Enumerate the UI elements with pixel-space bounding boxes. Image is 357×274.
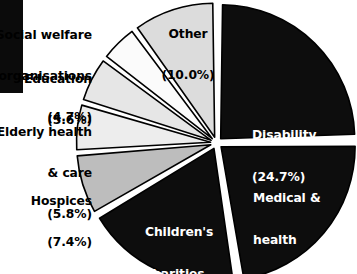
label-value: (10.0%) (146, 69, 230, 83)
label-value: (7.4%) (31, 236, 92, 250)
label-line: Medical & (253, 191, 321, 205)
slice-label-childrens-charities: Children's charities (19.0%) (145, 197, 213, 274)
label-line: Elderly health (0, 126, 92, 140)
label-line: Social welfare (0, 29, 92, 43)
label-line: health (253, 233, 321, 247)
label-line: Disability (252, 128, 316, 142)
label-line: charities (145, 267, 213, 274)
label-line: Hospices (31, 195, 92, 209)
chart-canvas: Social welfare organisations (4.7%) Educ… (0, 0, 357, 274)
slice-label-hospices: Hospices (7.4%) (31, 168, 92, 274)
label-line: Education (24, 73, 92, 87)
slice-label-other: Other (10.0%) (146, 1, 230, 110)
label-line: Children's (145, 225, 213, 239)
slice-label-medical-health-charities: Medical & health charities (22.8%) (253, 163, 321, 274)
label-line: Other (146, 28, 230, 42)
